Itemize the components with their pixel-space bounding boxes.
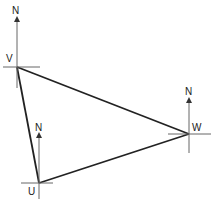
point-label: W (192, 122, 202, 133)
point-w: N W (168, 86, 211, 153)
point-v: N V (3, 5, 40, 88)
point-u: N U (21, 122, 53, 199)
edge-v-w (17, 67, 189, 134)
arrowhead-icon (186, 97, 192, 103)
point-label: V (6, 53, 13, 64)
north-label: N (185, 86, 192, 97)
edge-w-u (39, 134, 189, 183)
triangle (17, 67, 189, 183)
north-label: N (12, 5, 19, 16)
bearing-diagram: N V N W N U (0, 0, 212, 205)
arrowhead-icon (14, 16, 20, 22)
north-label: N (35, 122, 42, 133)
point-label: U (28, 186, 35, 197)
